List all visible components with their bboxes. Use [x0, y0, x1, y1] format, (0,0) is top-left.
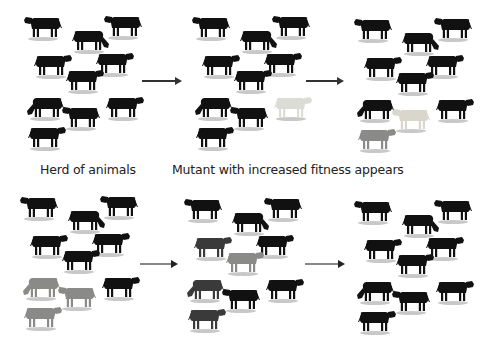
arrow-right-icon — [305, 260, 345, 268]
cow-black-icon — [434, 14, 474, 42]
cow-black-icon — [394, 68, 434, 96]
cow-black-icon — [264, 275, 304, 303]
cow-black-icon — [230, 103, 270, 131]
cow-black-icon — [62, 103, 102, 131]
cow-black-icon — [434, 95, 474, 123]
cow-grey-icon — [58, 283, 98, 311]
cow-black-icon — [26, 93, 66, 121]
cow-grey-icon — [22, 273, 62, 301]
cow-black-icon — [26, 123, 66, 151]
cow-black-icon — [272, 12, 312, 40]
cow-grey-icon — [22, 303, 62, 331]
cow-black-icon — [394, 250, 434, 278]
arrow-right-icon — [142, 77, 182, 85]
cow-dgrey-icon — [186, 275, 226, 303]
cow-grey-icon — [356, 125, 396, 153]
cow-grey-icon — [224, 248, 264, 276]
cow-black-icon — [192, 13, 232, 41]
cow-black-icon — [194, 93, 234, 121]
cow-black-icon — [104, 93, 144, 121]
cow-black-icon — [392, 287, 432, 315]
caption-mutant-appears: Mutant with increased fitness appears — [172, 162, 404, 177]
cow-black-icon — [434, 196, 474, 224]
panel-mutants-majority — [182, 190, 322, 340]
cow-black-icon — [24, 13, 64, 41]
panel-mutant-reproduces — [352, 10, 490, 160]
cow-white-icon — [272, 93, 312, 121]
cow-black-icon — [100, 192, 140, 220]
cow-black-icon — [356, 307, 396, 335]
cow-black-icon — [356, 277, 396, 305]
panel-mutants-spread — [18, 188, 158, 338]
cow-dgrey-icon — [186, 305, 226, 333]
cow-black-icon — [356, 95, 396, 123]
cow-black-icon — [194, 123, 234, 151]
cow-black-icon — [434, 277, 474, 305]
panel-herd — [22, 8, 162, 158]
cow-light-icon — [392, 105, 432, 133]
cow-black-icon — [232, 66, 272, 94]
cow-black-icon — [104, 12, 144, 40]
arrow-right-icon — [140, 260, 178, 268]
cow-black-icon — [222, 285, 262, 313]
caption-herd-of-animals: Herd of animals — [40, 162, 136, 177]
cow-black-icon — [354, 15, 394, 43]
arrow-right-icon — [306, 77, 344, 85]
cow-black-icon — [20, 193, 60, 221]
cow-black-icon — [264, 194, 304, 222]
cow-black-icon — [354, 197, 394, 225]
panel-herd-final — [352, 192, 490, 342]
cow-black-icon — [64, 66, 104, 94]
cow-black-icon — [60, 246, 100, 274]
cow-black-icon — [184, 195, 224, 223]
cow-black-icon — [100, 273, 140, 301]
